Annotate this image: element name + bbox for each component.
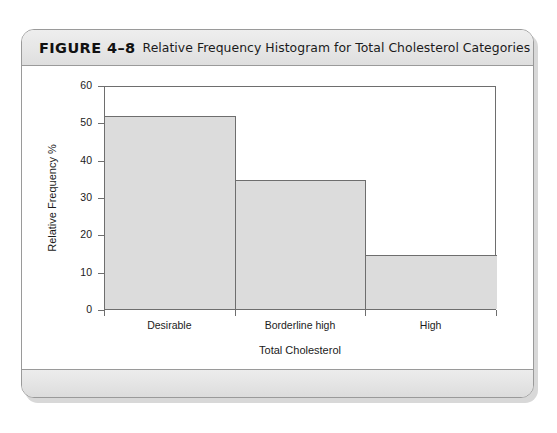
y-tick-label: 0: [68, 303, 92, 315]
figure-header: FIGURE 4–8 Relative Frequency Histogram …: [22, 30, 533, 66]
plot-frame: [104, 86, 496, 310]
chart-plot-area: Relative Frequency % 0102030405060 Desir…: [22, 67, 533, 368]
bar-desirable: [105, 116, 236, 309]
x-tick-mark: [365, 310, 366, 316]
y-tick-label: 60: [68, 79, 92, 91]
y-tick-label: 50: [68, 116, 92, 128]
bar-borderline-high: [236, 180, 367, 309]
y-tick-label: 30: [68, 191, 92, 203]
figure-card: FIGURE 4–8 Relative Frequency Histogram …: [21, 29, 534, 398]
y-tick-label: 10: [68, 266, 92, 278]
x-axis-title: Total Cholesterol: [104, 344, 496, 356]
x-tick-mark: [496, 310, 497, 316]
x-category-label-high: High: [365, 319, 496, 331]
y-tick-label: 40: [68, 154, 92, 166]
x-tick-mark: [235, 310, 236, 316]
y-axis-title: Relative Frequency %: [46, 144, 58, 252]
figure-caption: Relative Frequency Histogram for Total C…: [143, 40, 531, 55]
x-tick-mark: [104, 310, 105, 316]
bar-high: [366, 255, 497, 309]
figure-footer: [22, 369, 533, 397]
figure-number: FIGURE 4–8: [39, 40, 136, 56]
x-category-label-borderline-high: Borderline high: [235, 319, 366, 331]
x-category-label-desirable: Desirable: [104, 319, 235, 331]
y-tick-label: 20: [68, 228, 92, 240]
